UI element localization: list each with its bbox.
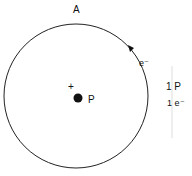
nucleus-label: P <box>88 95 95 105</box>
diagram-title: A <box>73 5 80 15</box>
electron-label: e⁻ <box>139 58 149 68</box>
orbit-arrow-icon <box>128 45 134 52</box>
atom-diagram <box>0 0 192 176</box>
legend-electrons: 1 e⁻ <box>167 98 185 108</box>
legend-protons: 1 P <box>166 82 181 92</box>
nucleus <box>74 94 83 103</box>
charge-sign: + <box>68 82 74 92</box>
